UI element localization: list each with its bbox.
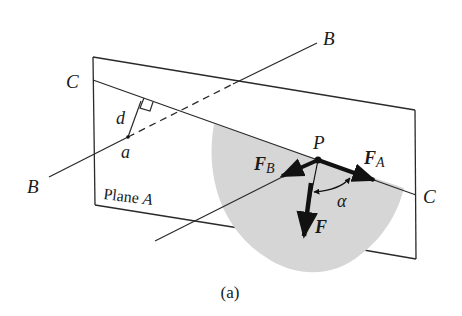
label-f: F (314, 217, 327, 237)
f-a-sub: A (375, 155, 385, 170)
plane-top-edge (93, 57, 415, 110)
label-d: d (116, 108, 126, 128)
label-f-a: FA (363, 148, 385, 170)
label-c-right: C (423, 186, 436, 207)
label-p: P (312, 132, 325, 153)
plane-left-edge (93, 57, 95, 205)
statics-figure: C C B B d a Plane A P FB FA F α (a) (0, 0, 462, 316)
f-b-main: F (253, 154, 266, 174)
label-alpha: α (337, 191, 347, 211)
line-b-right-solid (233, 43, 317, 84)
caption: (a) (221, 283, 240, 302)
f-a-main: F (363, 148, 376, 168)
label-plane-a: Plane A (103, 185, 154, 208)
label-a: a (121, 142, 130, 162)
plane-letter: A (141, 190, 154, 208)
point-p (315, 157, 322, 164)
point-a (126, 135, 130, 139)
label-b-left: B (27, 176, 39, 197)
plane-bottom-edge-left (95, 205, 245, 229)
plane-right-edge (415, 110, 416, 259)
label-b-top: B (323, 28, 335, 49)
plane-word: Plane (103, 185, 144, 207)
right-angle-marker (140, 98, 153, 111)
f-b-sub: B (266, 161, 275, 176)
label-c-left: C (66, 71, 79, 92)
line-b-left-solid (49, 137, 128, 177)
